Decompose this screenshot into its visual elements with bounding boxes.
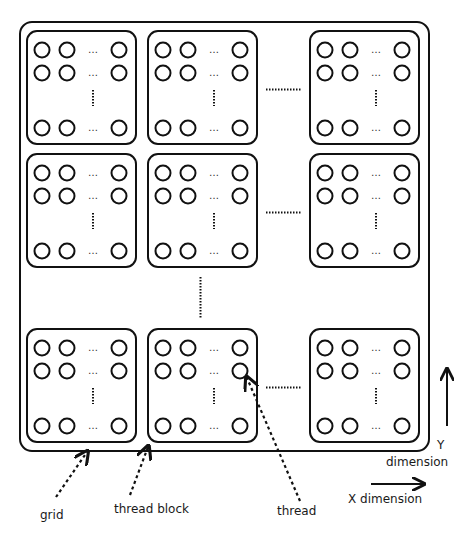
thread-block: ………: [310, 31, 419, 144]
thread: [233, 166, 248, 181]
thread: [112, 341, 127, 356]
thread-ellipsis: …: [371, 167, 381, 178]
thread-ellipsis: …: [371, 67, 381, 78]
thread-ellipsis: …: [88, 44, 98, 55]
annotation-arrows: [56, 370, 447, 501]
thread: [318, 121, 333, 136]
thread: [343, 364, 358, 379]
thread: [181, 121, 196, 136]
thread: [233, 189, 248, 204]
thread: [181, 66, 196, 81]
thread: [318, 66, 333, 81]
thread: [233, 419, 248, 434]
thread: [112, 419, 127, 434]
thread: [156, 66, 171, 81]
thread-ellipsis: …: [371, 420, 381, 431]
thread: [343, 66, 358, 81]
thread: [35, 244, 50, 259]
thread: [112, 166, 127, 181]
thread: [395, 43, 410, 58]
thread: [318, 364, 333, 379]
grid-outline: [20, 22, 429, 451]
thread-block: ………: [148, 329, 257, 442]
thread-ellipsis: …: [88, 67, 98, 78]
thread: [343, 121, 358, 136]
thread-ellipsis: …: [209, 190, 219, 201]
thread: [318, 43, 333, 58]
thread: [181, 166, 196, 181]
thread: [112, 364, 127, 379]
thread: [233, 244, 248, 259]
thread: [318, 419, 333, 434]
thread-ellipsis: …: [371, 365, 381, 376]
thread-block-pointer-arrow: [130, 447, 148, 495]
thread: [60, 166, 75, 181]
thread-block-outline: [148, 154, 257, 267]
thread: [233, 43, 248, 58]
thread: [156, 43, 171, 58]
thread-ellipsis: …: [371, 245, 381, 256]
thread: [318, 341, 333, 356]
thread-ellipsis: …: [88, 122, 98, 133]
thread: [35, 419, 50, 434]
thread-ellipsis: …: [209, 365, 219, 376]
thread-ellipsis: …: [88, 420, 98, 431]
thread-ellipsis: …: [371, 190, 381, 201]
thread: [395, 66, 410, 81]
thread: [181, 419, 196, 434]
thread: [60, 189, 75, 204]
thread: [156, 189, 171, 204]
thread: [35, 66, 50, 81]
thread-ellipsis: …: [209, 44, 219, 55]
thread-ellipsis: …: [371, 122, 381, 133]
x-dimension-label: X dimension: [348, 492, 422, 506]
thread-block-label: thread block: [114, 502, 189, 516]
thread-ellipsis: …: [88, 365, 98, 376]
grid: [20, 22, 429, 451]
thread: [60, 121, 75, 136]
thread-ellipsis: …: [88, 245, 98, 256]
thread: [35, 364, 50, 379]
thread: [60, 419, 75, 434]
thread-ellipsis: …: [88, 167, 98, 178]
thread: [343, 341, 358, 356]
thread: [35, 166, 50, 181]
thread: [156, 419, 171, 434]
thread-ellipsis: …: [209, 342, 219, 353]
thread: [343, 419, 358, 434]
thread-block-outline: [310, 329, 419, 442]
thread: [395, 419, 410, 434]
thread-block: ………: [27, 329, 136, 442]
thread-block: ………: [310, 329, 419, 442]
thread: [112, 43, 127, 58]
thread-ellipsis: …: [209, 67, 219, 78]
thread: [156, 121, 171, 136]
thread: [395, 341, 410, 356]
thread-block-outline: [27, 31, 136, 144]
thread-ellipsis: …: [209, 420, 219, 431]
thread: [156, 341, 171, 356]
thread-block-outline: [27, 329, 136, 442]
thread: [112, 121, 127, 136]
thread-block-outline: [148, 31, 257, 144]
thread: [60, 43, 75, 58]
thread: [233, 66, 248, 81]
thread: [181, 43, 196, 58]
thread: [181, 341, 196, 356]
thread: [35, 189, 50, 204]
thread: [181, 244, 196, 259]
thread: [156, 166, 171, 181]
thread: [233, 121, 248, 136]
thread-block: ………: [27, 31, 136, 144]
thread: [395, 244, 410, 259]
thread: [233, 364, 248, 379]
thread: [181, 189, 196, 204]
thread-block: ………: [148, 154, 257, 267]
thread-blocks: ………………………………………………………………………: [27, 31, 419, 442]
thread: [35, 341, 50, 356]
grid-label: grid: [40, 508, 64, 522]
thread: [181, 364, 196, 379]
thread-ellipsis: …: [371, 342, 381, 353]
grid-pointer-arrow: [56, 452, 87, 497]
thread-ellipsis: …: [371, 44, 381, 55]
